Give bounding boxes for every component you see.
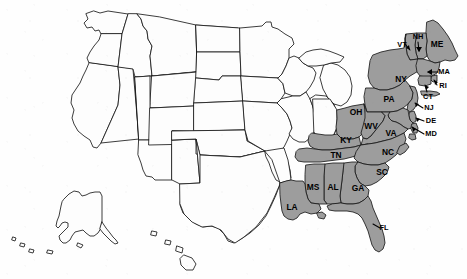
map-canvas: MENHVTMARICTNYNJPADEMDOHWVVAKYTNNCSCMSAL…	[0, 0, 467, 279]
state-shape-ct	[418, 76, 431, 86]
state-label-al: AL	[327, 182, 338, 192]
state-shape-ia	[241, 76, 285, 103]
state-shape-hi-3	[176, 246, 183, 253]
state-label-de: DE	[426, 116, 436, 125]
state-shape-la-delta	[317, 212, 326, 219]
state-label-me: ME	[431, 39, 444, 49]
state-label-md: MD	[425, 129, 437, 138]
state-shape-ks	[194, 101, 245, 131]
state-shape-wy-body	[150, 72, 197, 108]
state-shape-az	[138, 140, 172, 180]
state-shape-or	[87, 34, 122, 67]
state-label-ct: CT	[423, 92, 433, 101]
state-shape-ak-islet-5	[77, 243, 83, 248]
unshaded-states-group	[12, 11, 352, 270]
state-label-tn: TN	[330, 150, 341, 160]
us-states-map: MENHVTMARICTNYNJPADEMDOHWVVAKYTNNCSCMSAL…	[0, 0, 467, 279]
state-shape-nd-body	[196, 25, 240, 52]
state-label-ms: MS	[307, 182, 320, 192]
state-label-la: LA	[286, 202, 297, 212]
state-label-nh: NH	[413, 32, 424, 41]
state-shape-ak	[56, 191, 102, 243]
state-label-ky: KY	[340, 135, 352, 145]
state-shape-ak-islet-4	[47, 250, 53, 254]
state-label-va: VA	[385, 128, 396, 138]
state-shape-ak-panhandle	[100, 222, 118, 244]
state-shape-mi-up	[299, 49, 344, 66]
state-shape-va-cape	[409, 134, 416, 140]
state-label-vt: VT	[397, 40, 407, 49]
state-shape-ak-islet-3	[29, 249, 34, 253]
state-label-nc: NC	[382, 147, 394, 157]
state-shape-ak-islet-2	[20, 243, 25, 247]
state-shape-hi-1	[151, 231, 157, 236]
state-shape-wa	[84, 11, 128, 34]
state-label-ri: RI	[439, 81, 446, 90]
state-shape-hi-4	[180, 255, 196, 270]
state-shape-hi-2	[165, 240, 171, 245]
state-label-wv: WV	[364, 121, 378, 131]
state-label-nj: NJ	[424, 103, 433, 112]
state-label-ma: MA	[438, 67, 450, 76]
state-shape-ak-islet-1	[12, 237, 16, 241]
state-label-ga: GA	[352, 183, 365, 193]
state-label-pa: PA	[383, 94, 394, 104]
arrow-head-de	[416, 118, 420, 122]
state-label-oh: OH	[350, 107, 363, 117]
state-label-fl: FL	[379, 223, 389, 232]
state-label-sc: SC	[376, 167, 388, 177]
state-shape-fl	[327, 196, 385, 252]
state-shape-ne	[194, 76, 243, 103]
state-label-ny: NY	[395, 74, 407, 84]
